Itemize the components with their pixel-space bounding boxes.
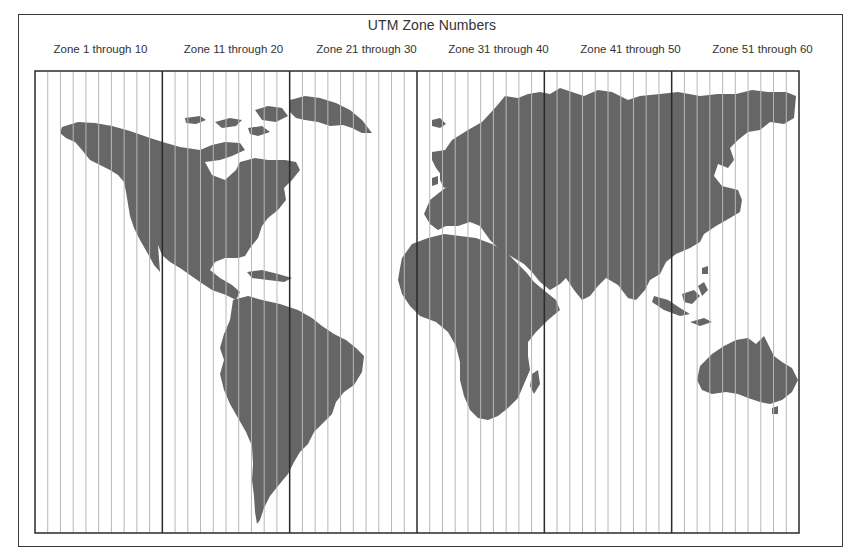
australia [697,336,798,404]
south-america [220,296,364,524]
land-masses [60,88,798,524]
world-map [0,0,864,557]
